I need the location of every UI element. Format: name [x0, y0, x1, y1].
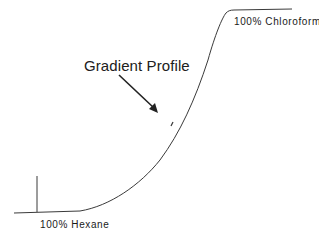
start-label: 100% Hexane [40, 219, 109, 230]
pointer-arrow-shaft [119, 75, 154, 108]
end-label: 100% Chloroform [234, 16, 319, 27]
baseline-line [14, 211, 80, 213]
gradient-curve [80, 9, 292, 211]
diagram-title: Gradient Profile [84, 57, 190, 74]
curve-tick [171, 122, 173, 126]
gradient-profile-diagram [0, 0, 319, 234]
